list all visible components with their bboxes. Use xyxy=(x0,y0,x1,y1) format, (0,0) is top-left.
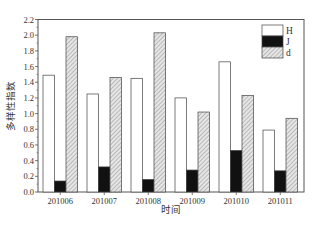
y-tick-label: 0.8 xyxy=(23,124,34,134)
legend-label-d: d xyxy=(286,48,291,58)
x-tick-label: 201006 xyxy=(48,196,74,206)
bar-d-201006 xyxy=(66,37,78,192)
legend: HJd xyxy=(262,25,293,58)
y-tick-label: 0.2 xyxy=(23,171,34,181)
bar-H-201011 xyxy=(263,130,275,192)
y-tick-label: 1.0 xyxy=(23,109,34,119)
bar-J-201010 xyxy=(231,150,243,192)
bars xyxy=(43,33,298,192)
bar-J-201007 xyxy=(99,167,111,192)
x-tick-label: 201007 xyxy=(92,196,118,206)
legend-swatch-d xyxy=(262,47,283,58)
bar-J-201006 xyxy=(55,181,67,192)
y-tick-label: 2.2 xyxy=(23,15,34,25)
bar-d-201010 xyxy=(242,96,254,192)
bar-H-201008 xyxy=(131,78,143,192)
y-tick-label: 0.0 xyxy=(23,187,34,197)
y-tick-label: 1.8 xyxy=(23,46,34,56)
bar-d-201008 xyxy=(154,33,166,192)
bar-H-201006 xyxy=(43,75,55,192)
bar-H-201007 xyxy=(87,94,99,192)
y-axis-title: 多样性指数 xyxy=(5,81,16,131)
x-tick-label: 201011 xyxy=(268,196,293,206)
y-tick-label: 1.6 xyxy=(23,62,34,72)
y-tick-label: 1.2 xyxy=(23,93,34,103)
x-tick-label: 201010 xyxy=(224,196,250,206)
legend-swatch-H xyxy=(262,25,283,36)
x-axis-title: 时间 xyxy=(161,204,181,215)
bar-H-201009 xyxy=(175,98,187,192)
bar-J-201009 xyxy=(187,170,199,192)
y-tick-label: 0.6 xyxy=(23,140,34,150)
x-tick-label: 201009 xyxy=(180,196,206,206)
bar-group-201010 xyxy=(219,62,254,192)
bar-group-201009 xyxy=(175,98,210,192)
bar-J-201011 xyxy=(275,171,287,192)
legend-label-H: H xyxy=(286,26,293,36)
bar-d-201007 xyxy=(110,78,122,192)
y-tick-label: 1.4 xyxy=(23,77,34,87)
y-axis: 0.00.20.40.60.81.01.21.41.61.82.02.2 xyxy=(23,15,38,198)
bar-d-201009 xyxy=(198,112,210,192)
bar-group-201008 xyxy=(131,33,166,192)
y-tick-label: 2.0 xyxy=(23,30,34,40)
bar-group-201007 xyxy=(87,78,122,192)
y-tick-label: 0.4 xyxy=(23,156,34,166)
legend-label-J: J xyxy=(286,37,290,47)
x-tick-label: 201008 xyxy=(136,196,162,206)
bar-group-201006 xyxy=(43,37,78,192)
bar-J-201008 xyxy=(143,179,155,192)
bar-H-201010 xyxy=(219,62,231,192)
bar-group-201011 xyxy=(263,118,298,192)
bar-d-201011 xyxy=(286,118,298,192)
legend-swatch-J xyxy=(262,36,283,47)
bar-chart: 0.00.20.40.60.81.01.21.41.61.82.02.2 201… xyxy=(0,0,315,229)
